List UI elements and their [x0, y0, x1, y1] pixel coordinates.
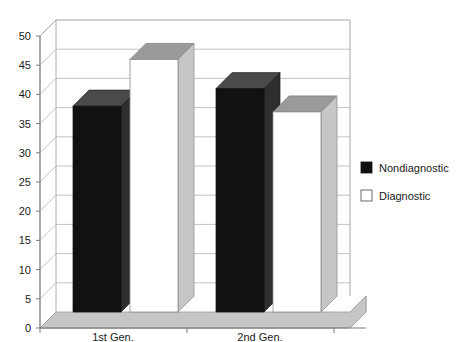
legend-swatch-diagnostic: [361, 190, 372, 201]
ytick-label-30: 30: [19, 147, 31, 159]
ytick-label-10: 10: [19, 264, 31, 276]
x-axis: [40, 328, 366, 333]
legend-swatch-nondiagnostic: [361, 162, 372, 173]
bar-2nd-gen-diagnostic: [273, 96, 337, 312]
xtick-label-2nd-gen: 2nd Gen.: [237, 331, 282, 342]
bar-1st-gen-diagnostic: [130, 43, 194, 312]
y-axis: [36, 36, 40, 328]
ytick-label-0: 0: [25, 322, 31, 334]
chart-canvas: 50 45 40 35 30 25 20 15 10 5 0: [0, 0, 470, 342]
bar-chart: 50 45 40 35 30 25 20 15 10 5 0: [0, 0, 470, 342]
legend-label-nondiagnostic: Nondiagnostic: [379, 162, 449, 174]
ytick-label-40: 40: [19, 88, 31, 100]
bar-1st-gen-nondiagnostic: [73, 90, 137, 312]
legend-label-diagnostic: Diagnostic: [379, 190, 431, 202]
xtick-label-1st-gen: 1st Gen.: [92, 331, 134, 342]
ytick-label-15: 15: [19, 234, 31, 246]
ytick-label-35: 35: [19, 118, 31, 130]
ytick-label-45: 45: [19, 59, 31, 71]
ytick-label-25: 25: [19, 176, 31, 188]
bar-2nd-gen-nondiagnostic: [216, 73, 280, 312]
ytick-label-5: 5: [25, 293, 31, 305]
legend: Nondiagnostic Diagnostic: [361, 162, 449, 202]
ytick-label-20: 20: [19, 205, 31, 217]
ytick-label-50: 50: [19, 30, 31, 42]
